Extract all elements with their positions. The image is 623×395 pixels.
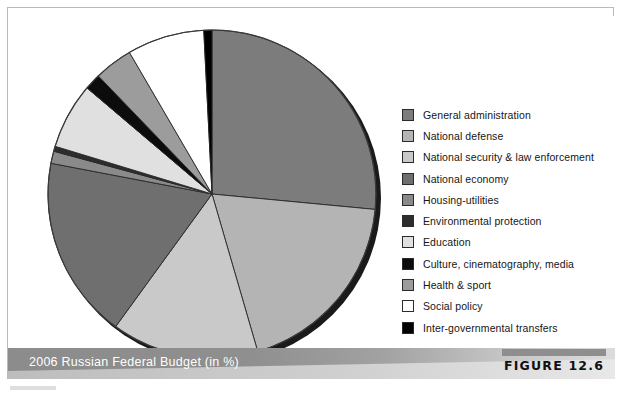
legend-item: Inter-governmental transfers xyxy=(402,317,617,338)
legend-item: Health & sport xyxy=(402,274,617,295)
pie-chart-svg xyxy=(36,22,386,362)
page-artifact xyxy=(10,386,56,390)
legend-swatch-icon xyxy=(402,322,414,334)
figure-tag-bar xyxy=(502,349,606,356)
legend-item-label: Environmental protection xyxy=(423,215,542,227)
legend-item-label: Social policy xyxy=(423,300,483,312)
figure-tag-label: FIGURE 12.6 xyxy=(502,358,606,373)
legend-item-label: National economy xyxy=(423,173,509,185)
legend-item-label: General administration xyxy=(423,109,531,121)
legend-item: General administration xyxy=(402,104,617,125)
figure-frame: General administrationNational defenseNa… xyxy=(7,7,614,379)
legend-swatch-icon xyxy=(402,151,414,163)
legend-swatch-icon xyxy=(402,130,414,142)
caption-title: 2006 Russian Federal Budget (in %) xyxy=(29,355,239,369)
legend-item: Education xyxy=(402,232,617,253)
legend-swatch-icon xyxy=(402,215,414,227)
legend-swatch-icon xyxy=(402,109,414,121)
pie-chart xyxy=(36,22,386,362)
pie-slice-group xyxy=(48,30,376,358)
legend-item: Environmental protection xyxy=(402,210,617,231)
figure-tag: FIGURE 12.6 xyxy=(502,349,606,373)
legend-item-label: Culture, cinematography, media xyxy=(423,258,574,270)
legend-item-label: Education xyxy=(423,236,471,248)
legend-swatch-icon xyxy=(402,300,414,312)
legend-swatch-icon xyxy=(402,279,414,291)
chart-area: General administrationNational defenseNa… xyxy=(16,16,621,352)
pie-slice xyxy=(212,30,376,209)
legend-item-label: National security & law enforcement xyxy=(423,151,594,163)
legend-swatch-icon xyxy=(402,258,414,270)
legend-swatch-icon xyxy=(402,173,414,185)
legend-item-label: Health & sport xyxy=(423,279,491,291)
legend-item: Social policy xyxy=(402,296,617,317)
legend-swatch-icon xyxy=(402,236,414,248)
legend-item-label: Housing-utilities xyxy=(423,194,499,206)
legend-item-label: Inter-governmental transfers xyxy=(423,322,558,334)
legend-item: Housing-utilities xyxy=(402,189,617,210)
legend: General administrationNational defenseNa… xyxy=(402,104,617,338)
legend-item: Culture, cinematography, media xyxy=(402,253,617,274)
caption-bar: 2006 Russian Federal Budget (in %) FIGUR… xyxy=(8,348,615,379)
legend-item: National security & law enforcement xyxy=(402,147,617,168)
figure-root: General administrationNational defenseNa… xyxy=(0,0,623,395)
legend-item-label: National defense xyxy=(423,130,503,142)
legend-swatch-icon xyxy=(402,194,414,206)
legend-item: National economy xyxy=(402,168,617,189)
legend-item: National defense xyxy=(402,125,617,146)
